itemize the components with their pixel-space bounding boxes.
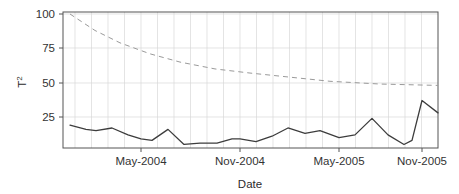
y-tick-label: 50 bbox=[42, 77, 55, 89]
y-axis-title-main: T bbox=[16, 81, 28, 88]
y-tick-label: 75 bbox=[42, 42, 55, 54]
x-tick-label: Nov-2004 bbox=[215, 155, 265, 167]
x-tick-label: May-2005 bbox=[313, 155, 364, 167]
y-tick-label: 25 bbox=[42, 111, 55, 123]
x-axis-title: Date bbox=[238, 178, 262, 190]
x-tick-label: May-2004 bbox=[115, 155, 167, 167]
y-axis-title-superscript: 2 bbox=[15, 76, 24, 81]
chart-container: 255075100 May-2004Nov-2004May-2005Nov-20… bbox=[0, 0, 459, 194]
y-tick-label: 100 bbox=[36, 8, 55, 20]
t2-control-chart: 255075100 May-2004Nov-2004May-2005Nov-20… bbox=[0, 0, 459, 194]
x-tick-label: Nov-2005 bbox=[397, 155, 447, 167]
